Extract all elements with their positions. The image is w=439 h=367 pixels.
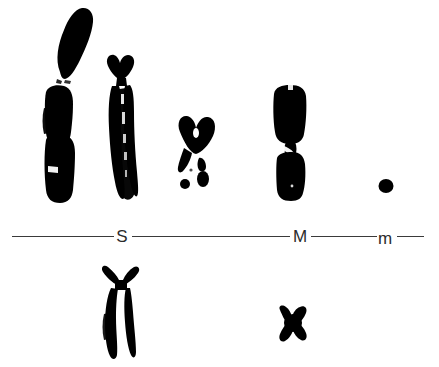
chromosome-4 xyxy=(262,76,322,208)
chromosome-6 xyxy=(90,262,152,366)
scale-segment-2 xyxy=(132,236,290,237)
chromosome-7 xyxy=(270,302,316,350)
scale-label-m: m xyxy=(377,230,393,247)
size-class-scale-bar: S M m xyxy=(0,215,439,257)
scale-label-M: M xyxy=(291,228,309,245)
scale-label-S: S xyxy=(114,228,130,245)
scale-segment-4 xyxy=(397,236,424,237)
chromosome-2 xyxy=(94,50,154,212)
scale-segment-1 xyxy=(12,236,114,237)
chromosome-3 xyxy=(168,112,226,198)
karyotype-figure: S M m xyxy=(0,0,439,367)
scale-segment-3 xyxy=(311,236,377,237)
chromosome-1 xyxy=(22,0,102,212)
chromosome-5 xyxy=(374,174,398,198)
